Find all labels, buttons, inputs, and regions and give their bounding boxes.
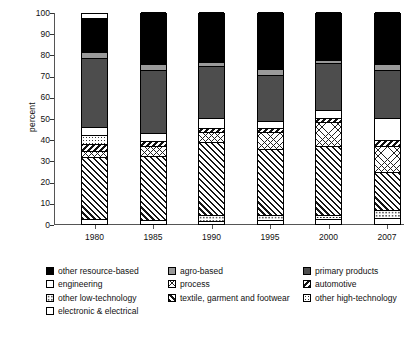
bar-segment[interactable] bbox=[375, 12, 400, 65]
y-tick-label: 40 bbox=[28, 136, 50, 145]
bar-segment[interactable] bbox=[199, 143, 224, 215]
legend-item[interactable]: other low-technology bbox=[46, 291, 171, 305]
bar-segment[interactable] bbox=[141, 142, 166, 146]
legend-label: automotive bbox=[315, 279, 357, 289]
legend-item[interactable]: automotive bbox=[303, 278, 417, 292]
bar-segment[interactable] bbox=[141, 65, 166, 71]
bar-segment[interactable] bbox=[141, 157, 166, 221]
bar-segment[interactable] bbox=[258, 12, 283, 70]
legend-column-1: other resource-basedengineeringother low… bbox=[46, 264, 171, 318]
bar-segment[interactable] bbox=[199, 12, 224, 63]
stacked-bar-chart-figure: percent 1009080706050403020100 198019851… bbox=[0, 0, 417, 339]
bar-segment[interactable] bbox=[316, 111, 341, 119]
bar-segment[interactable] bbox=[82, 59, 107, 128]
bar-segment[interactable] bbox=[258, 122, 283, 128]
legend-item[interactable]: textile, garment and footwear bbox=[168, 291, 313, 305]
legend-item[interactable]: other resource-based bbox=[46, 264, 171, 278]
bar-segment[interactable] bbox=[375, 141, 400, 146]
bar-segment[interactable] bbox=[141, 71, 166, 134]
bar-segment[interactable] bbox=[199, 216, 224, 222]
bar-segment[interactable] bbox=[141, 12, 166, 65]
bar-segment[interactable] bbox=[316, 123, 341, 146]
bar-segment[interactable] bbox=[316, 216, 341, 220]
legend-item[interactable]: process bbox=[168, 278, 313, 292]
legend-item[interactable]: electronic & electrical bbox=[46, 305, 171, 319]
bar-column[interactable] bbox=[374, 13, 401, 225]
x-tick-label: 1995 bbox=[250, 232, 290, 242]
bar-segment[interactable] bbox=[141, 221, 166, 224]
bar-column[interactable] bbox=[257, 13, 284, 225]
bar-segment[interactable] bbox=[375, 147, 400, 174]
y-axis-ticks: 1009080706050403020100 bbox=[22, 0, 50, 262]
bar-segment[interactable] bbox=[82, 128, 107, 136]
bar-segment[interactable] bbox=[258, 76, 283, 123]
legend-swatch-icon bbox=[303, 294, 311, 302]
bar-segment[interactable] bbox=[316, 64, 341, 111]
legend-swatch-icon bbox=[46, 294, 54, 302]
bar-segment[interactable] bbox=[375, 71, 400, 119]
legend-label: textile, garment and footwear bbox=[180, 293, 290, 303]
y-tick-label: 30 bbox=[28, 157, 50, 166]
x-tick-mark bbox=[95, 225, 96, 229]
bar-stack bbox=[374, 13, 401, 225]
bar-segment[interactable] bbox=[258, 221, 283, 224]
x-tick-mark bbox=[329, 225, 330, 229]
legend-item[interactable]: primary products bbox=[303, 264, 417, 278]
legend-swatch-icon bbox=[46, 267, 54, 275]
bar-segment[interactable] bbox=[82, 145, 107, 152]
bar-segment[interactable] bbox=[375, 119, 400, 141]
bar-segment[interactable] bbox=[375, 65, 400, 71]
legend-item[interactable]: agro-based bbox=[168, 264, 313, 278]
bar-segment[interactable] bbox=[316, 12, 341, 61]
bar-segment[interactable] bbox=[258, 70, 283, 75]
bar-segment[interactable] bbox=[82, 53, 107, 58]
legend-label: primary products bbox=[315, 266, 378, 276]
bar-segment[interactable] bbox=[141, 147, 166, 158]
bar-segment[interactable] bbox=[375, 219, 400, 224]
bar-segment[interactable] bbox=[82, 158, 107, 219]
x-tick-label: 1990 bbox=[192, 232, 232, 242]
bar-segment[interactable] bbox=[82, 18, 107, 53]
bar-segment[interactable] bbox=[82, 136, 107, 144]
y-tick-label: 100 bbox=[28, 9, 50, 18]
bar-segment[interactable] bbox=[141, 134, 166, 142]
bar-segment[interactable] bbox=[375, 173, 400, 211]
x-tick-mark bbox=[270, 225, 271, 229]
bar-segment[interactable] bbox=[199, 119, 224, 129]
bar-column[interactable] bbox=[140, 13, 167, 225]
bar-segment[interactable] bbox=[316, 220, 341, 224]
bar-segment[interactable] bbox=[258, 216, 283, 221]
legend-item[interactable]: engineering bbox=[46, 278, 171, 292]
bar-stack bbox=[140, 13, 167, 225]
legend-swatch-icon bbox=[303, 280, 311, 288]
bar-segment[interactable] bbox=[258, 133, 283, 150]
legend-swatch-icon bbox=[46, 280, 54, 288]
bar-segment[interactable] bbox=[316, 61, 341, 64]
bar-column[interactable] bbox=[315, 13, 342, 225]
bar-stack bbox=[257, 13, 284, 225]
bar-stack bbox=[198, 13, 225, 225]
bar-segment[interactable] bbox=[199, 63, 224, 67]
bar-column[interactable] bbox=[198, 13, 225, 225]
legend-column-2: agro-basedprocesstextile, garment and fo… bbox=[168, 264, 313, 305]
y-tick-label: 90 bbox=[28, 30, 50, 39]
bar-segment[interactable] bbox=[199, 67, 224, 119]
legend-label: engineering bbox=[58, 279, 102, 289]
legend-item[interactable]: other high-technology bbox=[303, 291, 417, 305]
bar-segment[interactable] bbox=[82, 152, 107, 158]
bar-segment[interactable] bbox=[258, 129, 283, 133]
bar-segment[interactable] bbox=[316, 147, 341, 216]
bar-segment[interactable] bbox=[82, 220, 107, 224]
y-tick-label: 20 bbox=[28, 178, 50, 187]
bar-segment[interactable] bbox=[199, 133, 224, 144]
x-tick-label: 1985 bbox=[133, 232, 173, 242]
bar-column[interactable] bbox=[81, 13, 108, 225]
bar-segment[interactable] bbox=[199, 129, 224, 133]
bar-segment[interactable] bbox=[375, 211, 400, 218]
bar-segment[interactable] bbox=[199, 222, 224, 224]
x-tick-mark bbox=[153, 225, 154, 229]
bar-group bbox=[55, 13, 404, 225]
bar-stack bbox=[81, 13, 108, 225]
bar-segment[interactable] bbox=[316, 119, 341, 123]
bar-segment[interactable] bbox=[258, 150, 283, 216]
